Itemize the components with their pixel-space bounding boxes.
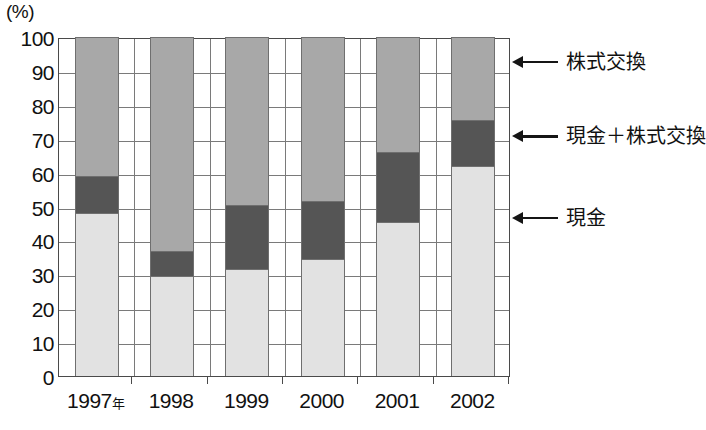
- plot-area: [58, 38, 510, 377]
- bar-segment[interactable]: [150, 251, 194, 276]
- gridline: [59, 141, 509, 142]
- y-axis-tick-label: 70: [2, 129, 54, 150]
- y-axis-tick-label: 50: [2, 197, 54, 218]
- column-separator: [285, 39, 286, 376]
- bar-segment[interactable]: [376, 37, 420, 152]
- bar-stack: [150, 39, 194, 376]
- bar-segment[interactable]: [451, 166, 495, 376]
- gridline: [59, 242, 509, 243]
- y-axis-tick-label: 0: [2, 367, 54, 388]
- y-axis-tick-labels: 0102030405060708090100: [0, 38, 54, 377]
- bar-segment[interactable]: [301, 259, 345, 376]
- arrow-left-icon: [512, 212, 558, 224]
- gridline: [59, 175, 509, 176]
- column-separator: [360, 39, 361, 376]
- arrow-left-icon: [512, 130, 558, 142]
- bar-segment[interactable]: [301, 37, 345, 201]
- bar-segment[interactable]: [376, 222, 420, 376]
- gridline: [59, 209, 509, 210]
- y-axis-tick-label: 20: [2, 299, 54, 320]
- x-axis-tick: [131, 377, 132, 384]
- y-axis-tick-label: 80: [2, 95, 54, 116]
- bar-segment[interactable]: [150, 276, 194, 376]
- y-axis-tick-label: 100: [2, 28, 54, 49]
- bar-segment[interactable]: [225, 205, 269, 269]
- bar-stack: [301, 39, 345, 376]
- gridline: [59, 276, 509, 277]
- bar-stack: [376, 39, 420, 376]
- x-axis-category-label: 1999: [209, 388, 284, 413]
- bar-segment[interactable]: [75, 213, 119, 376]
- bar-stack: [451, 39, 495, 376]
- legend-callout-cash: 現金: [512, 205, 606, 231]
- legend-callout-cash-plus-stock: 現金＋株式交換: [512, 123, 706, 149]
- x-axis-tick: [357, 377, 358, 384]
- arrow-left-icon: [512, 56, 558, 68]
- column-separator: [210, 39, 211, 376]
- bar-segment[interactable]: [301, 201, 345, 259]
- bar-segment[interactable]: [150, 37, 194, 251]
- y-axis-tick-label: 10: [2, 333, 54, 354]
- bar-segment[interactable]: [451, 37, 495, 120]
- bar-column[interactable]: [225, 39, 269, 376]
- bar-segment[interactable]: [451, 120, 495, 166]
- x-axis-category-label: 1997年: [58, 388, 133, 413]
- bar-segment[interactable]: [225, 37, 269, 205]
- x-axis-ticks: [58, 377, 510, 385]
- x-axis-category-label: 2002: [435, 388, 510, 413]
- bar-column[interactable]: [376, 39, 420, 376]
- gridline: [59, 107, 509, 108]
- bar-column[interactable]: [451, 39, 495, 376]
- bar-segment[interactable]: [75, 176, 119, 213]
- y-axis-tick-label: 90: [2, 61, 54, 82]
- bar-stack: [225, 39, 269, 376]
- x-axis-tick: [433, 377, 434, 384]
- x-axis-category-labels: 1997年19981999200020012002: [58, 388, 510, 422]
- bar-column[interactable]: [301, 39, 345, 376]
- column-separator: [134, 39, 135, 376]
- bar-segment[interactable]: [376, 152, 420, 221]
- legend-callout-stock-exchange: 株式交換: [512, 49, 646, 75]
- bar-column[interactable]: [75, 39, 119, 376]
- x-axis-tick: [207, 377, 208, 384]
- legend-callout-label: 現金: [558, 208, 606, 228]
- y-axis-tick-label: 40: [2, 231, 54, 252]
- x-axis-label-suffix: 年: [112, 396, 125, 411]
- bar-column[interactable]: [150, 39, 194, 376]
- gridline: [59, 344, 509, 345]
- x-axis-tick: [282, 377, 283, 384]
- bar-segment[interactable]: [75, 37, 119, 176]
- bar-stack: [75, 39, 119, 376]
- x-axis-category-label: 2001: [359, 388, 434, 413]
- gridline: [59, 73, 509, 74]
- y-axis-tick-label: 30: [2, 265, 54, 286]
- y-axis-unit-label: (%): [6, 2, 34, 21]
- legend-callout-label: 現金＋株式交換: [558, 126, 706, 146]
- bar-segment[interactable]: [225, 269, 269, 376]
- x-axis-category-label: 2000: [284, 388, 359, 413]
- legend-callout-label: 株式交換: [558, 52, 646, 72]
- gridline: [59, 310, 509, 311]
- x-axis-tick: [508, 377, 509, 384]
- y-axis-tick-label: 60: [2, 163, 54, 184]
- x-axis-category-label: 1998: [133, 388, 208, 413]
- column-separator: [436, 39, 437, 376]
